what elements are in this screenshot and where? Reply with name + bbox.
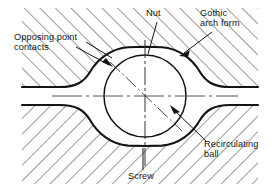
label-recirculating-ball: Recirculating ball <box>204 139 258 160</box>
label-gothic-arch-form: Gothic arch form <box>200 8 240 29</box>
label-nut: Nut <box>146 8 161 18</box>
label-screw: Screw <box>128 171 154 181</box>
label-opposing-point-contacts: Opposing point contacts <box>14 32 77 53</box>
